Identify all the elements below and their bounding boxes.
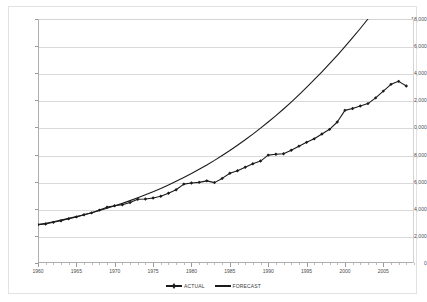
data-point-marker <box>167 192 170 195</box>
x-axis-tick-label: 1990 <box>263 268 274 274</box>
x-axis-minor-tick <box>61 263 62 265</box>
data-point-marker <box>251 162 254 165</box>
x-axis-minor-tick <box>99 263 100 265</box>
series-actual <box>36 80 408 227</box>
x-axis-tick-mark <box>115 263 116 267</box>
x-axis-minor-tick <box>222 263 223 265</box>
series-layer <box>38 19 414 263</box>
legend-label-actual: ACTUAL <box>184 283 205 289</box>
data-point-marker <box>36 223 39 226</box>
x-axis-minor-tick <box>199 263 200 265</box>
x-axis-tick-mark <box>345 263 346 267</box>
x-axis-minor-tick <box>414 263 415 265</box>
x-axis-tick-mark <box>38 263 39 267</box>
chart-container: 02,0004,0006,0008,00010,00012,00014,0001… <box>0 0 427 302</box>
x-axis-minor-tick <box>145 263 146 265</box>
data-point-marker <box>205 179 208 182</box>
x-axis-minor-tick <box>376 263 377 265</box>
data-point-marker <box>151 196 154 199</box>
x-axis-tick-label: 1975 <box>148 268 159 274</box>
x-axis-minor-tick <box>391 263 392 265</box>
data-point-marker <box>90 211 93 214</box>
data-point-marker <box>243 166 246 169</box>
legend-item-forecast[interactable]: FORECAST <box>215 283 261 289</box>
data-point-marker <box>351 107 354 110</box>
x-axis-tick-mark <box>153 263 154 267</box>
x-axis-minor-tick <box>238 263 239 265</box>
x-axis-tick-label: 1995 <box>301 268 312 274</box>
data-point-marker <box>359 104 362 107</box>
series-line <box>38 81 406 224</box>
x-axis-tick-label: 1970 <box>109 268 120 274</box>
x-axis-minor-tick <box>314 263 315 265</box>
x-axis-minor-tick <box>214 263 215 265</box>
data-point-marker <box>190 181 193 184</box>
x-axis-tick-mark <box>383 263 384 267</box>
x-axis-tick-label: 1960 <box>32 268 43 274</box>
x-axis-tick-label: 1965 <box>71 268 82 274</box>
x-axis-minor-tick <box>253 263 254 265</box>
x-axis-minor-tick <box>299 263 300 265</box>
x-axis-minor-tick <box>130 263 131 265</box>
x-axis-minor-tick <box>46 263 47 265</box>
x-axis-minor-tick <box>245 263 246 265</box>
legend-item-actual[interactable]: ACTUAL <box>166 283 205 289</box>
x-axis-minor-tick <box>92 263 93 265</box>
data-point-marker <box>274 153 277 156</box>
x-axis-minor-tick <box>399 263 400 265</box>
chart-legend: ACTUAL FORECAST <box>0 281 427 291</box>
x-axis-tick-label: 2005 <box>378 268 389 274</box>
x-axis-minor-tick <box>161 263 162 265</box>
x-axis-minor-tick <box>353 263 354 265</box>
x-axis-minor-tick <box>107 263 108 265</box>
legend-line-icon <box>215 283 231 289</box>
x-axis-minor-tick <box>276 263 277 265</box>
data-point-marker <box>197 181 200 184</box>
x-axis-minor-tick <box>330 263 331 265</box>
x-axis-tick-mark <box>76 263 77 267</box>
x-axis-tick-label: 1985 <box>224 268 235 274</box>
x-axis-minor-tick <box>168 263 169 265</box>
legend-marker-diamond-icon <box>166 283 182 289</box>
legend-label-forecast: FORECAST <box>233 283 261 289</box>
x-axis-minor-tick <box>184 263 185 265</box>
x-axis-minor-tick <box>368 263 369 265</box>
data-point-marker <box>159 195 162 198</box>
x-axis-minor-tick <box>69 263 70 265</box>
x-axis-tick-mark <box>230 263 231 267</box>
data-point-marker <box>236 169 239 172</box>
x-axis-minor-tick <box>138 263 139 265</box>
x-axis-minor-tick <box>122 263 123 265</box>
x-axis-minor-tick <box>337 263 338 265</box>
x-axis-minor-tick <box>84 263 85 265</box>
series-forecast <box>38 0 406 225</box>
data-point-marker <box>82 213 85 216</box>
x-axis-minor-tick <box>53 263 54 265</box>
x-axis-minor-tick <box>291 263 292 265</box>
x-axis-minor-tick <box>360 263 361 265</box>
x-axis-tick-mark <box>307 263 308 267</box>
data-point-marker <box>113 204 116 207</box>
x-axis-tick-label: 1980 <box>186 268 197 274</box>
x-axis-tick-mark <box>268 263 269 267</box>
x-axis-minor-tick <box>207 263 208 265</box>
series-line <box>38 0 406 225</box>
data-point-marker <box>282 152 285 155</box>
data-point-marker <box>144 197 147 200</box>
x-axis-minor-tick <box>284 263 285 265</box>
x-axis-minor-tick <box>406 263 407 265</box>
x-axis-minor-tick <box>322 263 323 265</box>
x-axis-minor-tick <box>261 263 262 265</box>
x-axis-minor-tick <box>176 263 177 265</box>
data-point-marker <box>75 215 78 218</box>
x-axis-tick-label: 2000 <box>339 268 350 274</box>
x-axis-tick-mark <box>191 263 192 267</box>
